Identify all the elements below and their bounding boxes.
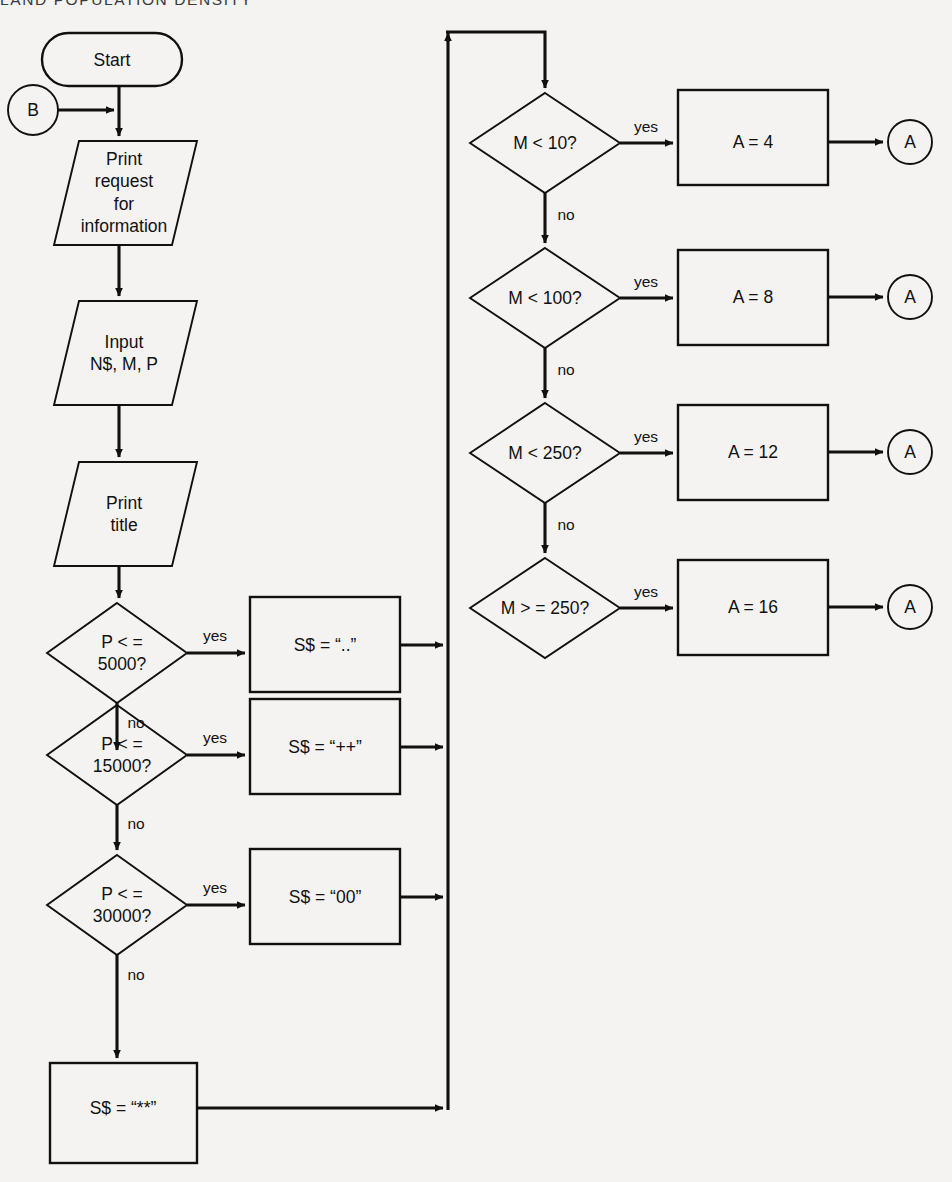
collector-to-decision-m10 [446,32,545,88]
connector-a-1 [888,120,932,164]
process-a-12 [678,405,828,500]
decision-m-lt-100 [470,248,620,348]
decision-m-lt-10 [470,93,620,193]
process-ss-zero [250,849,400,944]
start-terminator [42,33,182,86]
decision-p-30000 [47,855,187,955]
connector-a-4 [888,585,932,629]
decision-p-5000 [47,603,187,703]
process-a-8 [678,250,828,345]
flowchart-page: LAND POPULATION DENSITY [0,0,952,1182]
process-a-4 [678,90,828,185]
process-ss-star [50,1063,197,1163]
flowchart-canvas [0,0,952,1182]
process-ss-dots [250,597,400,692]
input-io [54,301,197,405]
decision-m-lt-250 [470,403,620,503]
print-title-io [54,462,197,566]
connector-a-3 [888,430,932,474]
process-ss-plus [250,699,400,794]
connector-a-2 [888,275,932,319]
process-a-16 [678,560,828,655]
connector-b [8,85,58,135]
decision-m-ge-250 [470,558,620,658]
print-request-io [54,141,197,245]
